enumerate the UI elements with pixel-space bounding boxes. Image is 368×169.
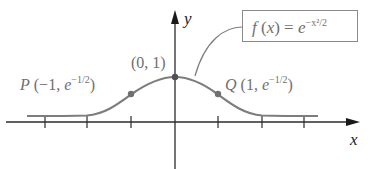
q-name: Q [225, 76, 237, 93]
formula-e: e [298, 18, 306, 37]
point-q [215, 91, 221, 97]
x-axis-label: x [350, 131, 358, 148]
p-name: P [20, 76, 30, 93]
peak-label: (0, 1) [131, 55, 166, 71]
y-axis-label: y [184, 10, 192, 27]
p-coords: (−1, [30, 76, 64, 93]
formula-eq: ) = [274, 18, 298, 37]
q-close: ) [287, 76, 292, 93]
p-exponent: −1/2 [71, 74, 89, 85]
p-close: ) [90, 76, 95, 93]
formula-label: f (x) = e−x²/2 [252, 18, 327, 36]
y-axis-arrow-icon [171, 10, 179, 24]
formula-exponent: −x²/2 [306, 17, 327, 28]
q-exponent: −1/2 [269, 74, 287, 85]
point-peak [172, 74, 178, 80]
leader-line [195, 27, 242, 76]
x-axis-arrow-icon [346, 118, 360, 126]
formula-paren: ( [257, 18, 267, 37]
point-q-label: Q (1, e−1/2) [225, 75, 293, 93]
q-coords: (1, [237, 76, 262, 93]
q-e: e [262, 76, 269, 93]
point-p-label: P (−1, e−1/2) [20, 75, 95, 93]
point-p [128, 91, 134, 97]
